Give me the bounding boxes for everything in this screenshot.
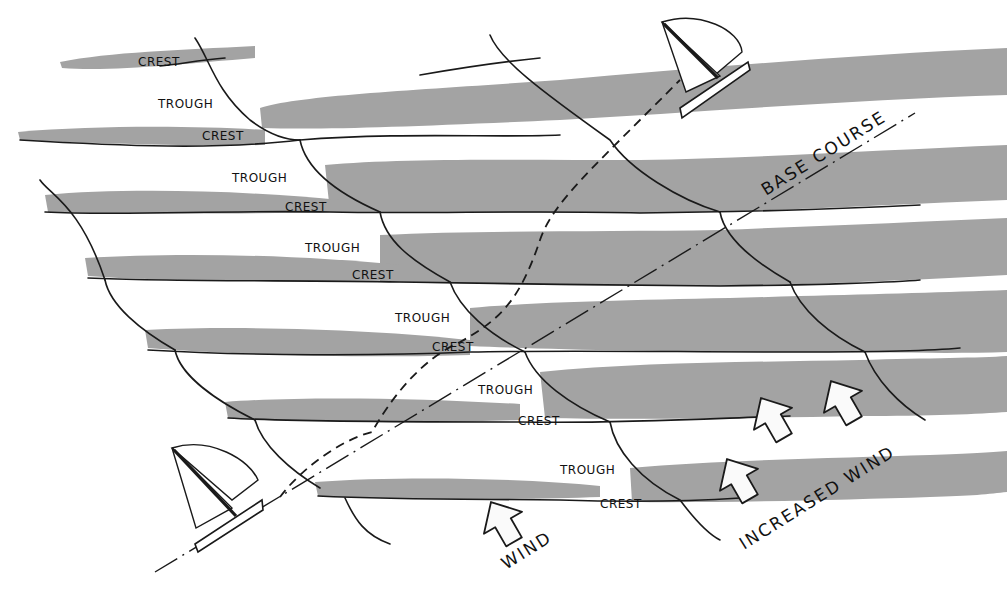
trough-label: TROUGH xyxy=(477,383,533,397)
wave-bands xyxy=(18,46,1007,502)
trough-label: TROUGH xyxy=(304,241,360,255)
trough-label: TROUGH xyxy=(157,97,213,111)
crest-label: CREST xyxy=(138,55,180,69)
sailboat-start xyxy=(172,445,263,552)
crest-label: CREST xyxy=(518,414,560,428)
trough-label: TROUGH xyxy=(559,463,615,477)
wave-course-diagram: CREST TROUGH CREST TROUGH CREST TROUGH C… xyxy=(0,0,1007,591)
crest-label: CREST xyxy=(285,200,327,214)
trough-label: TROUGH xyxy=(231,171,287,185)
trough-label: TROUGH xyxy=(394,311,450,325)
crest-label: CREST xyxy=(432,340,474,354)
crest-label: CREST xyxy=(600,497,642,511)
crest-label: CREST xyxy=(202,129,244,143)
crest-label: CREST xyxy=(352,268,394,282)
actual-course-dashed xyxy=(280,80,680,497)
